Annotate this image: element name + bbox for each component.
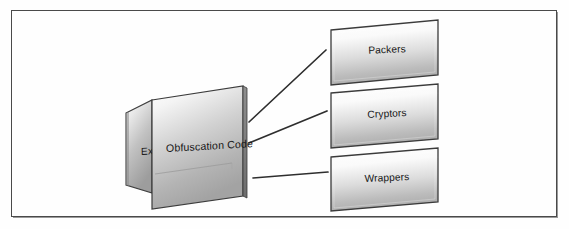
diagram-vector-layer [0,0,569,229]
connector-to-cryptors [249,111,327,143]
connector-to-wrappers [253,172,328,178]
diagram-canvas: Ex Obfuscation Code Packers Cryptors Wra… [0,0,569,229]
connector-to-packers [249,50,326,122]
connector-lines [249,50,328,178]
back-panel-label: Ex [141,145,152,157]
